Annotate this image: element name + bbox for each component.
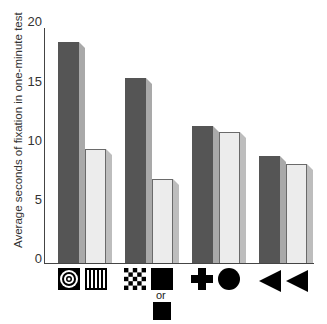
bar-face <box>85 149 106 263</box>
bar-side-shade <box>240 138 246 263</box>
y-tick-10: 10 <box>26 133 42 148</box>
bar-side-shade <box>307 170 313 263</box>
y-tick-20: 20 <box>26 14 42 29</box>
small-solid-square-icon <box>153 302 171 320</box>
bar-face <box>259 156 280 263</box>
bar-side-shade <box>173 185 179 263</box>
solid-square-icon <box>151 268 173 290</box>
bar-side-cap <box>79 42 85 48</box>
or-label: or <box>156 289 166 301</box>
cross-icon <box>191 268 213 290</box>
bar-chart: Average seconds of fixation in one-minut… <box>0 0 327 324</box>
bar-first-2 <box>125 78 153 263</box>
bar-face <box>219 132 240 263</box>
concentric-circles-icon <box>58 268 80 290</box>
y-tick-15: 15 <box>26 74 42 89</box>
bar-face <box>125 78 146 263</box>
bar-first-4 <box>259 156 287 263</box>
bar-side-shade <box>106 155 112 263</box>
bar-second-3 <box>219 132 247 263</box>
bar-side-cap <box>280 156 286 162</box>
bar-face <box>58 42 79 263</box>
checkerboard-icon <box>124 268 146 290</box>
bar-side-cap <box>106 149 112 155</box>
bar-face <box>286 164 307 263</box>
bar-side-cap <box>146 78 152 84</box>
bar-first-1 <box>58 42 86 263</box>
y-axis-line <box>44 28 45 263</box>
vertical-stripes-icon <box>85 268 107 290</box>
x-axis-line <box>44 263 314 264</box>
bar-side-cap <box>307 164 313 170</box>
bar-second-2 <box>152 179 180 263</box>
y-axis-label: Average seconds of fixation in one-minut… <box>12 28 24 248</box>
left-triangle-icon <box>259 270 281 292</box>
bar-second-4 <box>286 164 314 263</box>
bar-side-cap <box>240 132 246 138</box>
bar-side-cap <box>173 179 179 185</box>
solid-circle-icon <box>218 268 240 290</box>
bar-face <box>152 179 173 263</box>
y-tick-5: 5 <box>26 192 42 207</box>
bar-first-3 <box>192 126 220 263</box>
left-triangle-icon <box>286 270 308 292</box>
bar-second-1 <box>85 149 113 263</box>
bar-face <box>192 126 213 263</box>
y-tick-0: 0 <box>26 251 42 266</box>
